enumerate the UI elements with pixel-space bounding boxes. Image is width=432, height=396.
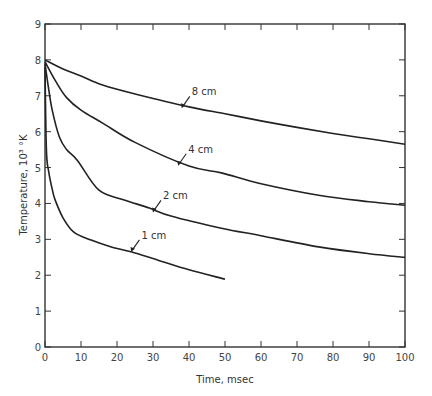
curve-label-4-cm: 4 cm [188, 144, 213, 155]
x-tick-label: 0 [42, 352, 48, 363]
y-tick-label: 1 [35, 306, 41, 317]
y-tick-label: 0 [35, 342, 41, 353]
y-tick-label: 2 [35, 270, 41, 281]
y-tick-label: 8 [35, 55, 41, 66]
curve-2-cm [45, 64, 405, 258]
curve-label-2-cm: 2 cm [163, 190, 188, 201]
y-tick-label: 4 [35, 198, 41, 209]
y-tick-label: 9 [35, 19, 41, 30]
x-tick-label: 60 [255, 352, 268, 363]
x-tick-label: 20 [111, 352, 124, 363]
y-axis-ticks: 0123456789 [35, 19, 405, 353]
x-tick-label: 70 [291, 352, 304, 363]
y-tick-label: 3 [35, 234, 41, 245]
y-tick-label: 7 [35, 91, 41, 102]
x-tick-label: 40 [183, 352, 196, 363]
x-axis-title: Time, msec [195, 374, 253, 385]
y-tick-label: 5 [35, 163, 41, 174]
plot-frame [45, 24, 405, 347]
curve-1-cm [45, 67, 225, 279]
y-tick-label: 6 [35, 127, 41, 138]
x-tick-label: 50 [219, 352, 232, 363]
y-axis-title: Temperature, 10³ °K [18, 134, 29, 237]
temperature-decay-chart: 0102030405060708090100 0123456789 8 cm4 … [0, 0, 432, 396]
x-tick-label: 10 [75, 352, 88, 363]
curve-8-cm [45, 60, 405, 144]
x-axis-ticks: 0102030405060708090100 [42, 24, 415, 363]
plot-border [45, 24, 405, 347]
x-tick-label: 100 [395, 352, 414, 363]
x-tick-label: 80 [327, 352, 340, 363]
curve-label-1-cm: 1 cm [141, 230, 166, 241]
x-tick-label: 30 [147, 352, 160, 363]
curves [45, 60, 405, 279]
x-tick-label: 90 [363, 352, 376, 363]
curve-label-8-cm: 8 cm [192, 86, 217, 97]
